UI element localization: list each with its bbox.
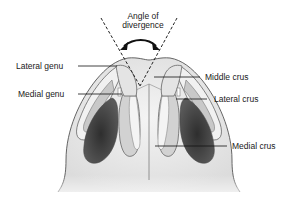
label-lateral-genu: Lateral genu: [16, 62, 63, 71]
label-medial-genu: Medial genu: [18, 90, 64, 99]
title-line-2: divergence: [110, 21, 176, 30]
label-lateral-crus: Lateral crus: [214, 95, 258, 104]
label-medial-crus: Medial crus: [232, 142, 275, 151]
angle-arrow-icon: [120, 40, 160, 50]
label-middle-crus: Middle crus: [205, 73, 248, 82]
angle-of-divergence-label: Angle of divergence: [110, 12, 176, 31]
nasal-tip-diagram: Angle of divergence Lateral genu Medial …: [0, 0, 298, 206]
